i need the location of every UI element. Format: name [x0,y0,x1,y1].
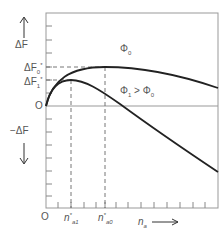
arrow-down-icon [20,143,28,164]
x-axis-ticks [58,202,205,208]
free-energy-diagram [0,0,219,235]
y-axis-down-label: −ΔF [10,126,29,136]
arrow-up-icon [20,17,28,38]
x-origin-label: O [41,212,49,222]
y-tick-dF0-star: ΔF0* [24,62,42,75]
curve-label-phi1: Φ1 > Φ0 [120,86,154,98]
y-tick-dF1-star: ΔF1* [24,76,42,89]
y-axis-up-label: ΔF [15,40,28,50]
y-axis-ticks [46,26,52,196]
plot-frame [46,13,218,208]
y-origin-label: O [35,101,43,111]
curve-label-phi0: Φ0 [120,44,131,56]
x-axis-label: na [138,217,147,229]
arrow-right-icon [152,219,178,225]
x-tick-na0-star: n*a0 [98,212,113,225]
x-tick-na1-star: n*a1 [64,212,79,225]
